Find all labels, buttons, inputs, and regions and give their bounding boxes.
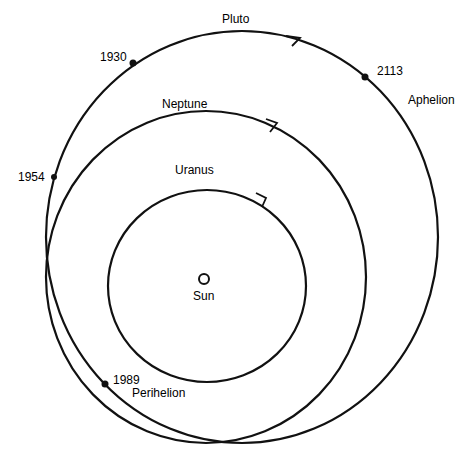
marker-1930	[130, 60, 137, 67]
sun-label: Sun	[193, 289, 214, 303]
perihelion-label: Perihelion	[132, 386, 185, 400]
aphelion-label: Aphelion	[408, 93, 455, 107]
year-2113-label: 2113	[377, 64, 403, 78]
marker-1954	[51, 174, 57, 180]
year-1989-label: 1989	[113, 373, 140, 387]
neptune-orbit	[46, 111, 366, 443]
neptune-label: Neptune	[162, 97, 207, 111]
pluto-label: Pluto	[222, 12, 249, 26]
marker-1989	[102, 381, 109, 388]
marker-2113	[362, 74, 369, 81]
year-1954-label: 1954	[18, 170, 45, 184]
year-1930-label: 1930	[100, 50, 127, 64]
uranus-label: Uranus	[175, 163, 214, 177]
sun-icon	[199, 274, 209, 284]
uranus-orbit	[108, 190, 306, 382]
